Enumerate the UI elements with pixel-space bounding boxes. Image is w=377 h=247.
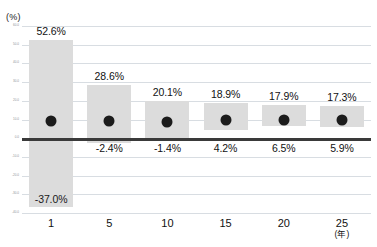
max-value-label: 52.6% xyxy=(36,25,65,37)
gridline: 20.0 xyxy=(22,101,371,102)
x-axis-tick-label: 5 xyxy=(106,217,112,230)
average-marker xyxy=(336,114,347,125)
gridline: -20.0 xyxy=(22,176,371,177)
y-axis-tick-label: -40.0 xyxy=(12,211,19,214)
x-axis-tick-value: 25 xyxy=(336,217,348,229)
average-marker xyxy=(278,114,289,125)
average-marker xyxy=(162,117,173,128)
chart-container: (%) 60.050.040.030.020.010.00.0-10.0-20.… xyxy=(0,0,377,247)
average-marker xyxy=(46,115,57,126)
max-value-label: 18.9% xyxy=(211,88,240,100)
max-value-label: 28.6% xyxy=(95,70,124,82)
gridline: 30.0 xyxy=(22,82,371,83)
max-value-label: 17.9% xyxy=(269,90,298,102)
min-value-label: 5.9% xyxy=(330,142,354,154)
y-axis-tick-label: -10.0 xyxy=(12,155,19,158)
y-axis-tick-label: 60.0 xyxy=(13,24,19,27)
gridline: 50.0 xyxy=(22,45,371,46)
gridline: 40.0 xyxy=(22,63,371,64)
max-value-label: 17.3% xyxy=(327,91,356,103)
range-bar xyxy=(87,85,131,143)
x-axis-tick-label: 25(年) xyxy=(335,217,350,239)
x-axis-tick-label: 20 xyxy=(278,217,290,230)
x-axis-tick-value: 5 xyxy=(106,217,112,229)
plot-area: 60.050.040.030.020.010.00.0-10.0-20.0-30… xyxy=(22,26,371,213)
gridline: 10.0 xyxy=(22,120,371,121)
min-value-label: 4.2% xyxy=(214,142,238,154)
y-axis-tick-label: 50.0 xyxy=(13,43,19,46)
y-axis-unit-label: (%) xyxy=(6,12,21,22)
y-axis-tick-label: -30.0 xyxy=(12,193,19,196)
x-axis: 1510152025(年) xyxy=(22,213,371,247)
x-axis-tick-value: 20 xyxy=(278,217,290,229)
min-value-label: -37.0% xyxy=(35,193,68,205)
gridline: -10.0 xyxy=(22,157,371,158)
y-axis-tick-label: -20.0 xyxy=(12,174,19,177)
y-axis-tick-label: 40.0 xyxy=(13,62,19,65)
y-axis-tick-label: 20.0 xyxy=(13,99,19,102)
zero-baseline: 0.0 xyxy=(22,138,371,141)
x-axis-tick-value: 1 xyxy=(48,217,54,229)
average-marker xyxy=(104,116,115,127)
x-axis-tick-value: 10 xyxy=(161,217,173,229)
x-axis-tick-value: 15 xyxy=(219,217,231,229)
x-axis-tick-label: 15 xyxy=(219,217,231,230)
gridline: 60.0 xyxy=(22,26,371,27)
y-axis-tick-label: 0.0 xyxy=(15,137,19,140)
y-axis-tick-label: 10.0 xyxy=(13,118,19,121)
average-marker xyxy=(220,115,231,126)
gridline: -30.0 xyxy=(22,194,371,195)
min-value-label: 6.5% xyxy=(272,142,296,154)
x-axis-unit-label: (年) xyxy=(335,230,350,240)
x-axis-tick-label: 1 xyxy=(48,217,54,230)
y-axis-tick-label: 30.0 xyxy=(13,81,19,84)
max-value-label: 20.1% xyxy=(153,86,182,98)
x-axis-tick-label: 10 xyxy=(161,217,173,230)
min-value-label: -2.4% xyxy=(96,142,123,154)
min-value-label: -1.4% xyxy=(154,142,181,154)
